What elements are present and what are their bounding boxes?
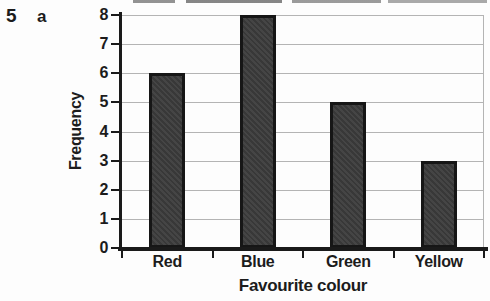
question-part-letter: a	[37, 7, 46, 27]
y-tick-label-1: 1	[84, 210, 108, 228]
y-tick-label-7: 7	[84, 35, 108, 53]
y-tick-label-3: 3	[84, 152, 108, 170]
y-tick-label-0: 0	[84, 239, 108, 257]
y-tick-label-8: 8	[84, 6, 108, 24]
y-tick-6	[111, 72, 120, 74]
question-number: 5	[6, 5, 16, 27]
category-label-red: Red	[122, 253, 213, 271]
category-label-yellow: Yellow	[394, 253, 485, 271]
y-tick-1	[111, 218, 120, 220]
scanned-textbook-page: 5 a Frequency 012345678 RedBlueGreenYell…	[0, 0, 490, 301]
bar-yellow	[421, 161, 457, 248]
bar-red	[149, 73, 185, 248]
scan-artifact-strip	[133, 0, 487, 3]
y-tick-label-2: 2	[84, 181, 108, 199]
y-tick-label-4: 4	[84, 123, 108, 141]
bar-green	[330, 102, 366, 248]
category-label-green: Green	[303, 253, 394, 271]
y-tick-label-5: 5	[84, 93, 108, 111]
plot-area	[122, 15, 484, 248]
bar-blue	[240, 15, 276, 248]
y-tick-5	[111, 101, 120, 103]
gridline-y-7	[122, 44, 483, 45]
y-tick-3	[111, 160, 120, 162]
category-label-blue: Blue	[213, 253, 304, 271]
y-tick-0	[111, 247, 120, 249]
y-tick-label-6: 6	[84, 64, 108, 82]
y-tick-7	[111, 43, 120, 45]
x-axis-title: Favourite colour	[122, 276, 484, 296]
y-tick-4	[111, 131, 120, 133]
y-tick-8	[111, 14, 120, 16]
y-tick-2	[111, 189, 120, 191]
y-axis-title: Frequency	[67, 92, 85, 170]
gridline-y-8	[122, 15, 483, 16]
